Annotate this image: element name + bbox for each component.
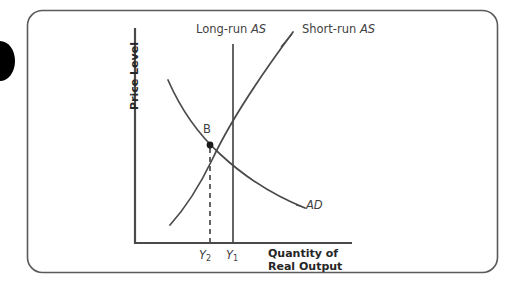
equilibrium-point-b-label: B [203, 122, 211, 136]
short-run-as-leader-line [281, 34, 292, 47]
tick-label-y2-base: Y [199, 248, 206, 262]
tick-label-y1: Y1 [226, 248, 238, 263]
y-axis-label: Price Level [128, 42, 141, 110]
page-bullet-icon [0, 41, 15, 81]
tick-label-y1-base: Y [226, 248, 233, 262]
tick-label-y2: Y2 [199, 248, 211, 263]
ad-label: AD [306, 198, 323, 212]
figure-border [28, 11, 498, 273]
short-run-as-label: Short-run AS [302, 22, 375, 36]
long-run-as-label: Long-run AS [196, 22, 266, 36]
short-run-as-label-prefix: Short-run [302, 22, 360, 36]
x-axis-label: Quantity of Real Output [268, 248, 342, 273]
diagram-canvas: Price Level Long-run AS Short-run AS AD … [0, 0, 512, 288]
x-axis-label-line1: Quantity of [268, 248, 342, 261]
x-axis-label-line2: Real Output [268, 261, 342, 274]
short-run-as-curve [170, 32, 293, 225]
long-run-as-label-prefix: Long-run [196, 22, 251, 36]
ad-curve [168, 80, 305, 208]
short-run-as-label-italic: AS [360, 22, 375, 36]
diagram-svg [0, 0, 512, 288]
tick-label-y1-sub: 1 [233, 254, 238, 263]
tick-label-y2-sub: 2 [206, 254, 211, 263]
long-run-as-label-italic: AS [251, 22, 266, 36]
equilibrium-point-b-marker [207, 142, 214, 149]
